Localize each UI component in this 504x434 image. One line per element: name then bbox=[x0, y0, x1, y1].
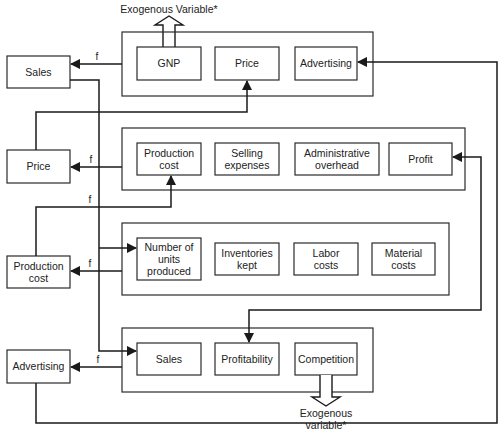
exogenous-variable-bottom-label-1: Exogenous bbox=[300, 407, 353, 419]
price-label: Price bbox=[235, 57, 259, 69]
left-box-sales: Sales bbox=[7, 56, 70, 88]
left-box-advertising-label: Advertising bbox=[13, 360, 65, 372]
group-production-cost-determinants: Number of units produced Inventories kep… bbox=[122, 223, 449, 295]
competition-label: Competition bbox=[298, 353, 354, 365]
connector-price-feedback bbox=[36, 81, 247, 150]
left-box-sales-label: Sales bbox=[25, 66, 51, 78]
f-label-production-cost: f bbox=[89, 258, 92, 269]
group-price-determinants: Production cost Selling expenses Adminis… bbox=[122, 128, 465, 190]
advertising-label: Advertising bbox=[300, 57, 352, 69]
administrative-overhead-label-1: Administrative bbox=[304, 147, 370, 159]
production-cost-label-2: cost bbox=[159, 159, 178, 171]
labor-costs-label-1: Labor bbox=[313, 247, 340, 259]
f-label-sales: f bbox=[96, 51, 99, 62]
f-label-production-cost-feedback: f bbox=[89, 194, 92, 205]
exogenous-variable-top-label: Exogenous Variable* bbox=[120, 3, 217, 15]
f-label-advertising: f bbox=[97, 354, 100, 365]
causal-flow-diagram: Exogenous Variable* Sales Price Producti… bbox=[0, 0, 504, 434]
connector-profit-profitability bbox=[249, 157, 481, 342]
group-advertising-determinants: Sales Profitability Competition bbox=[122, 328, 373, 392]
left-box-production-cost-label-1: Production bbox=[13, 260, 63, 272]
material-costs-label-2: costs bbox=[391, 259, 416, 271]
exogenous-variable-bottom-label-2: variable* bbox=[306, 419, 347, 431]
left-box-production-cost: Production cost bbox=[7, 256, 70, 288]
function-arrows: f f f f bbox=[71, 51, 122, 367]
left-box-price-label: Price bbox=[27, 160, 51, 172]
selling-expenses-label-1: Selling bbox=[231, 147, 263, 159]
number-of-units-label-1: Number of bbox=[144, 241, 193, 253]
gnp-label: GNP bbox=[158, 57, 181, 69]
administrative-overhead-label-2: overhead bbox=[315, 159, 359, 171]
profit-label: Profit bbox=[408, 153, 433, 165]
exogenous-down-arrow-icon bbox=[312, 375, 340, 406]
connector-sales-bus bbox=[70, 80, 136, 351]
labor-costs-label-2: costs bbox=[314, 259, 339, 271]
f-label-price: f bbox=[90, 154, 93, 165]
number-of-units-label-3: produced bbox=[147, 265, 191, 277]
material-costs-label-1: Material bbox=[385, 247, 422, 259]
inventories-kept-label-2: kept bbox=[237, 259, 257, 271]
left-box-price: Price bbox=[7, 150, 70, 183]
left-box-production-cost-label-2: cost bbox=[29, 272, 48, 284]
number-of-units-label-2: units bbox=[158, 253, 180, 265]
selling-expenses-label-2: expenses bbox=[225, 159, 270, 171]
sales-label: Sales bbox=[156, 353, 182, 365]
profitability-label: Profitability bbox=[221, 353, 273, 365]
left-box-advertising: Advertising bbox=[7, 350, 70, 383]
inventories-kept-label-1: Inventories bbox=[221, 247, 272, 259]
production-cost-label-1: Production bbox=[144, 147, 194, 159]
